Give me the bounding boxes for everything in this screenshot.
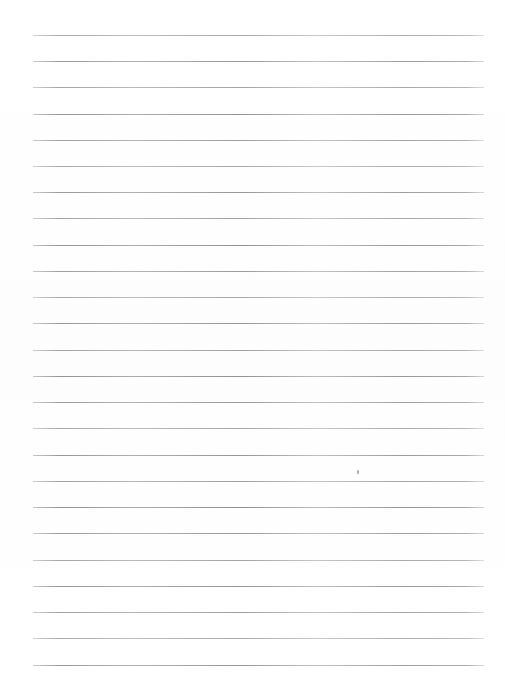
rule-line [33, 507, 484, 508]
rule-line [33, 350, 484, 351]
rule-line [33, 612, 484, 613]
rule-line [33, 61, 484, 62]
rule-line [33, 297, 484, 298]
rule-line [33, 87, 484, 88]
rule-line [33, 428, 484, 429]
rule-line [33, 533, 484, 534]
scan-dust-speck [357, 470, 359, 474]
rule-line [33, 665, 484, 666]
rule-line [33, 114, 484, 115]
rule-line [33, 166, 484, 167]
rule-line [33, 455, 484, 456]
rule-line [33, 481, 484, 482]
rule-line [33, 638, 484, 639]
rule-line [33, 560, 484, 561]
rule-line [33, 35, 484, 36]
rule-line [33, 323, 484, 324]
rule-line [33, 586, 484, 587]
rule-line [33, 376, 484, 377]
rule-line [33, 245, 484, 246]
rule-line [33, 271, 484, 272]
ruled-paper-page [0, 0, 505, 676]
rule-line [33, 218, 484, 219]
rule-line [33, 192, 484, 193]
rule-line [33, 140, 484, 141]
ruled-lines-layer [0, 0, 505, 676]
rule-line [33, 402, 484, 403]
